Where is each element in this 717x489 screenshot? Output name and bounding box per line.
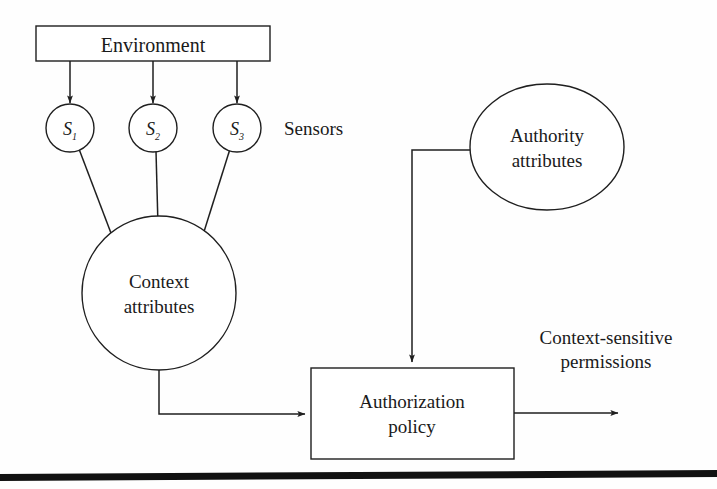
- output-permissions-label-line1: Context-sensitive: [540, 327, 673, 348]
- node-authority-attributes-line1: Authority: [510, 125, 584, 146]
- edge-sensor-1-to-context: [79, 149, 114, 241]
- edge-sensor-2-to-context: [156, 151, 158, 226]
- node-sensor-1: S1: [46, 104, 94, 152]
- node-sensor-2-base: S: [146, 119, 155, 139]
- output-permissions-label-line2: permissions: [561, 351, 652, 372]
- node-sensor-2-subscript: 2: [155, 131, 160, 142]
- node-environment: Environment: [36, 26, 270, 61]
- sensors-label: Sensors: [284, 118, 343, 139]
- edge-authority-to-policy: [412, 150, 470, 362]
- edge-context-to-policy: [159, 366, 305, 414]
- node-context-attributes-line1: Context: [129, 271, 190, 292]
- node-authorization-policy-line1: Authorization: [359, 391, 465, 412]
- node-authorization-policy-line2: policy: [388, 416, 436, 437]
- edge-sensor-3-to-context: [202, 149, 230, 238]
- node-context-attributes-line2: attributes: [124, 296, 195, 317]
- node-authorization-policy: Authorization policy: [311, 368, 514, 459]
- diagram-canvas: Environment S1 S2 S3 Sensors: [0, 0, 717, 489]
- node-sensor-3-base: S: [230, 119, 239, 139]
- node-sensor-3: S3: [213, 104, 261, 152]
- node-sensor-3-subscript: 3: [238, 131, 244, 142]
- node-context-attributes: Context attributes: [82, 216, 236, 370]
- node-environment-label: Environment: [101, 34, 206, 56]
- node-sensor-2: S2: [129, 104, 177, 152]
- node-sensor-1-subscript: 1: [72, 131, 77, 142]
- node-authority-attributes-line2: attributes: [512, 150, 583, 171]
- node-authority-attributes: Authority attributes: [470, 84, 624, 210]
- figure-container: Environment S1 S2 S3 Sensors: [0, 0, 717, 489]
- bottom-divider-rule: [0, 470, 717, 481]
- node-sensor-1-base: S: [63, 119, 72, 139]
